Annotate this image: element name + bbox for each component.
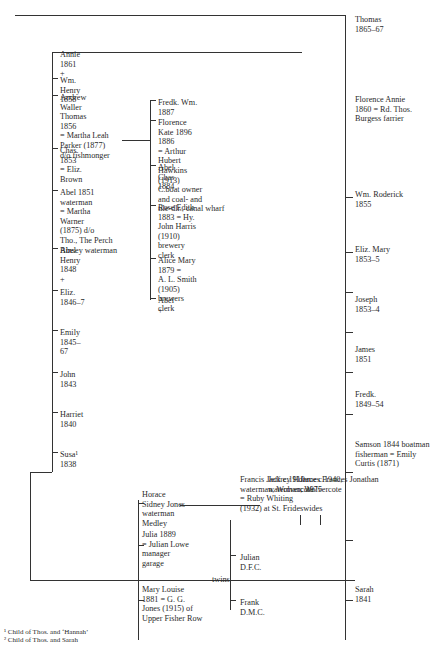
samson-children-vertical	[52, 52, 53, 472]
text-line: = Julian Lowe	[142, 540, 189, 550]
samson-to-parent	[30, 472, 52, 473]
tick	[345, 252, 353, 253]
tick	[52, 248, 58, 249]
tick	[150, 165, 156, 166]
text-line: 1853	[60, 156, 82, 166]
text-line: Emily	[60, 328, 80, 338]
person-wm-roderick: Wm. Roderick1855	[355, 190, 403, 209]
text-line: James Frances Jonathan	[300, 475, 379, 485]
person-horace: HoraceSidney JoneswatermanMedley	[142, 490, 185, 528]
footnote: ¹ Child of Thos. and ‘Hannah’	[4, 628, 88, 636]
text-line: brewers	[158, 294, 197, 304]
abel-link	[122, 140, 150, 141]
text-line: brewery	[158, 241, 196, 251]
abel-child-5: Fredk. Wm.1887	[158, 98, 197, 117]
tick	[52, 330, 58, 331]
text-line: tile-dlr., canal wharf	[158, 204, 224, 214]
text-line: fisherman = Emily	[355, 450, 430, 460]
text-line: and coal- and	[158, 195, 224, 205]
text-line: 1851	[355, 355, 375, 365]
person-joseph: Joseph1853–4	[355, 295, 380, 314]
text-line: Medley	[142, 519, 185, 529]
text-line: Joseph	[355, 295, 380, 305]
person-7: Emily1845–67	[60, 328, 80, 357]
text-line: D.F.C.	[240, 563, 261, 573]
text-line: = Arthur	[158, 147, 224, 157]
text-line: Thomas	[60, 112, 110, 122]
samson-parent-horizontal	[30, 580, 355, 581]
text-line: Upper Fisher Row	[142, 614, 203, 624]
top-rule	[15, 15, 345, 16]
person-10: Susa¹1838	[60, 450, 78, 469]
text-line: Tho., The Perch	[60, 236, 117, 246]
samson-children-bracket	[52, 52, 302, 53]
text-line: 1840	[60, 420, 83, 430]
tick	[345, 600, 353, 601]
text-line: Curtis (1871)	[355, 459, 430, 469]
text-line: +	[60, 275, 80, 285]
tick	[52, 372, 58, 373]
ml-tick-3	[138, 503, 144, 504]
person-florence-annie: Florence Annie1860 = Rd. Thos.Burgess fa…	[355, 95, 412, 124]
text-line: 1886	[158, 137, 224, 147]
text-line: Burgess farrier	[355, 114, 412, 124]
person-sarah: Sarah1841	[355, 585, 374, 604]
text-line: 1887	[158, 108, 197, 118]
text-line: Samson 1844 boatman	[355, 440, 430, 450]
text-line: clerk	[158, 304, 197, 314]
text-line: Brown	[60, 175, 82, 185]
text-line: Kate 1896	[158, 128, 224, 138]
text-line: Julian	[240, 553, 261, 563]
tick	[150, 100, 156, 101]
twins-vertical	[230, 520, 231, 610]
person-0: Annie1861+	[60, 50, 80, 79]
ml-vertical	[138, 500, 139, 640]
tick	[150, 205, 156, 206]
tick	[150, 298, 156, 299]
text-line: 67	[60, 347, 80, 357]
text-line: C.boat owner	[158, 185, 224, 195]
text-line: 1849–54	[355, 400, 384, 410]
twins-label: twins	[212, 575, 230, 585]
footnote: ² Child of Thos. and Sarah	[4, 636, 88, 644]
text-line: 1853–5	[355, 255, 390, 265]
tick	[52, 78, 58, 79]
text-line: John	[60, 370, 76, 380]
text-line: Eliz. Mary	[355, 245, 390, 255]
text-line: James	[355, 345, 375, 355]
text-line: Florence Annie	[355, 95, 412, 105]
tick	[52, 190, 58, 191]
text-line: (1913)	[158, 176, 224, 186]
ml-tick-1	[138, 600, 144, 601]
text-line: manager	[142, 549, 189, 559]
text-line: Fredk.	[355, 390, 384, 400]
text-line: 1845–	[60, 338, 80, 348]
person-5: AbelHenry1848+	[60, 246, 80, 284]
samson-parent-vertical	[30, 472, 31, 580]
text-line: c.1975	[300, 485, 379, 495]
text-line: Jones (1915) of	[142, 604, 203, 614]
twins-tick-2	[230, 555, 236, 556]
tick	[52, 148, 58, 149]
text-line: Warner	[60, 217, 117, 227]
tick	[345, 332, 353, 333]
person-mary-louise: Mary Louise1881 = G. G.Jones (1915) ofUp…	[142, 585, 203, 623]
tick	[345, 472, 353, 473]
person-eliz-mary: Eliz. Mary1853–5	[355, 245, 390, 264]
text-line: Wm. Roderick	[355, 190, 403, 200]
text-line: 1856	[60, 122, 110, 132]
tick	[52, 412, 58, 413]
text-line: 1879 =	[158, 266, 197, 276]
text-line: 1855	[355, 200, 403, 210]
text-line: A. L. Smith	[158, 275, 197, 285]
text-line: 1843	[60, 380, 76, 390]
text-line: Eliz.	[60, 288, 85, 298]
text-line: Andrew	[60, 93, 110, 103]
jeffrey-down	[320, 515, 321, 525]
text-line: Annie	[60, 50, 80, 60]
abel-child-4: FlorenceKate 18961886= ArthurHubertHawki…	[158, 118, 224, 214]
text-line: Florence	[158, 118, 224, 128]
person-samson: Samson 1844 boatmanfisherman = EmilyCurt…	[355, 440, 430, 469]
text-line: = Ruby Whiting	[240, 494, 322, 504]
text-line: 1865–67	[355, 25, 384, 35]
